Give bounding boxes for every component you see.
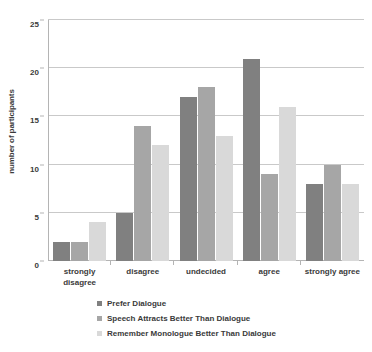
y-axis-tick-mark (40, 164, 44, 165)
x-axis-tick-label: stronglydisagree (48, 266, 111, 288)
y-axis-tick-mark (40, 212, 44, 213)
bar-group (111, 20, 174, 261)
x-axis-tick-label: strongly agree (301, 266, 364, 288)
x-axis-tick-label-line: undecided (174, 266, 237, 277)
bar-group (301, 20, 364, 261)
y-axis-title: number of participants (2, 0, 20, 262)
bar (89, 222, 106, 261)
bars-layer (48, 20, 364, 261)
y-axis-tick-mark (40, 68, 44, 69)
x-axis-tick-label: disagree (111, 266, 174, 288)
bar (279, 107, 296, 261)
legend-item[interactable]: Speech Attracts Better Than Dialogue (97, 311, 347, 326)
x-axis-tick-label-line: strongly (48, 266, 111, 277)
x-axis-tick-mark (173, 261, 174, 265)
x-axis-tick-labels: stronglydisagreedisagreeundecidedagreest… (48, 266, 364, 288)
bar (180, 97, 197, 261)
x-axis-tick-label: agree (238, 266, 301, 288)
x-axis-tick-mark (300, 261, 301, 265)
legend-item[interactable]: Prefer Dialogue (97, 296, 347, 311)
y-axis-tick-mark (40, 20, 44, 21)
legend-swatch-icon (97, 331, 102, 336)
x-axis-tick-label: undecided (174, 266, 237, 288)
legend-swatch-icon (97, 301, 102, 306)
y-axis-tick-labels: 0510152025 (20, 20, 44, 261)
bar (324, 165, 341, 261)
y-axis-title-text: number of participants (7, 89, 16, 173)
bar (243, 59, 260, 261)
bar (134, 126, 151, 261)
y-axis-tick-mark (40, 116, 44, 117)
bar (261, 174, 278, 261)
bar (198, 87, 215, 261)
y-axis-tick-mark (40, 261, 44, 262)
x-axis-tick-label-line: strongly agree (301, 266, 364, 277)
bar-group (174, 20, 237, 261)
legend-item-label: Speech Attracts Better Than Dialogue (107, 314, 250, 323)
legend-item-label: Remember Monologue Better Than Dialogue (107, 329, 276, 338)
bar-group (238, 20, 301, 261)
x-axis-tick-label-line: disagree (111, 266, 174, 277)
bar-chart-figure: number of participants 0510152025 strong… (0, 0, 372, 352)
chart-legend: Prefer DialogueSpeech Attracts Better Th… (97, 296, 347, 341)
x-axis-tick-label-line: agree (238, 266, 301, 277)
bar (71, 242, 88, 261)
legend-item-label: Prefer Dialogue (107, 299, 166, 308)
x-axis-tick-mark (110, 261, 111, 265)
bar (342, 184, 359, 261)
bar-group (48, 20, 111, 261)
x-axis-tick-label-line: disagree (48, 277, 111, 288)
bar (306, 184, 323, 261)
plot-area (48, 20, 364, 261)
bar (116, 213, 133, 261)
bar (216, 136, 233, 261)
legend-swatch-icon (97, 316, 102, 321)
bar (53, 242, 70, 261)
bar (152, 145, 169, 261)
x-axis-tick-mark (237, 261, 238, 265)
legend-item[interactable]: Remember Monologue Better Than Dialogue (97, 326, 347, 341)
